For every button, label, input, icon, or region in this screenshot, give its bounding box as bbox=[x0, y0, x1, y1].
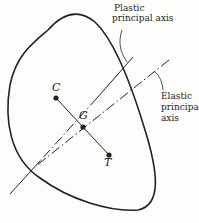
plastic-axis-leader bbox=[120, 30, 127, 62]
plastic-axis-label-line1: Plastic bbox=[114, 3, 144, 13]
elastic-axis-label-line2: principal bbox=[161, 102, 199, 112]
plastic-axis-dashdot bbox=[40, 98, 97, 161]
elastic-axis-dashdot bbox=[36, 60, 169, 166]
point-c-label: C bbox=[52, 83, 60, 93]
point-g-label: G bbox=[79, 111, 88, 121]
elastic-axis-label-line3: axis bbox=[161, 113, 179, 123]
plastic-axis-label-line2: principal axis bbox=[112, 13, 173, 23]
point-g-marker bbox=[80, 124, 85, 129]
elastic-axis-leader bbox=[155, 72, 163, 90]
elastic-axis-label-line1: Elastic bbox=[161, 91, 192, 101]
plastic-axis-solid-lower bbox=[10, 161, 40, 194]
point-t-label: T bbox=[104, 158, 111, 168]
figure-canvas: Plastic principal axis Elastic principal… bbox=[0, 0, 199, 223]
point-c-marker bbox=[53, 95, 58, 100]
